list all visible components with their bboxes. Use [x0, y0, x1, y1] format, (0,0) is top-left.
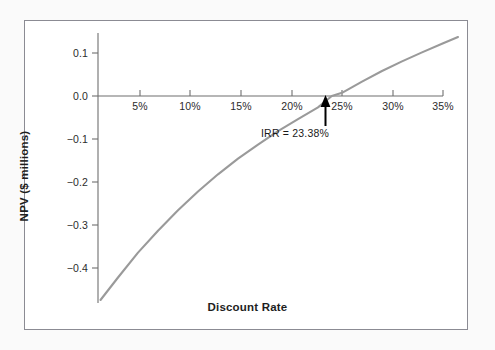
- x-tick-label-1: 10%: [172, 100, 208, 112]
- y-tick-label-0: 0.1: [62, 47, 88, 59]
- y-tick-label-2: −0.1: [56, 133, 88, 145]
- y-axis-title: NPV ($ millions): [18, 116, 30, 236]
- x-tick-label-0: 5%: [122, 100, 158, 112]
- x-tick-label-2: 15%: [223, 100, 259, 112]
- x-axis-title: Discount Rate: [0, 301, 495, 313]
- irr-annotation-label: IRR = 23.38%: [261, 127, 329, 139]
- y-tick-label-1: 0.0: [62, 90, 88, 102]
- x-tick-label-6: 35%: [425, 100, 461, 112]
- x-tick-label-3: 20%: [274, 100, 310, 112]
- x-tick-label-5: 30%: [375, 100, 411, 112]
- x-tick-label-4: 25%: [324, 100, 360, 112]
- chart-screenshot: 0.1 0.0 −0.1 −0.2 −0.3 −0.4 5% 10% 15% 2…: [0, 0, 495, 350]
- figure-frame: [24, 20, 468, 330]
- y-tick-label-5: −0.4: [56, 262, 88, 274]
- y-tick-label-3: −0.2: [56, 176, 88, 188]
- y-tick-label-4: −0.3: [56, 219, 88, 231]
